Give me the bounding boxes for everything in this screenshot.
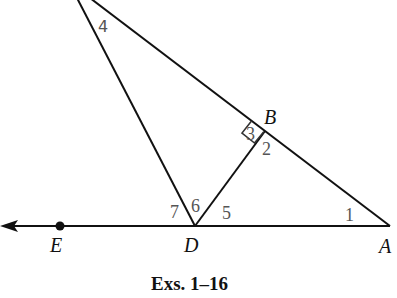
- point-label-b: B: [264, 106, 276, 128]
- angle-label-7: 7: [170, 202, 179, 222]
- angle-label-5: 5: [222, 203, 231, 223]
- figure-caption: Exs. 1–16: [151, 273, 228, 294]
- point-e-dot: [56, 222, 65, 231]
- point-label-a: A: [377, 235, 392, 257]
- point-label-e: E: [49, 234, 62, 256]
- point-label-d: D: [183, 234, 199, 256]
- angle-label-4: 4: [98, 17, 108, 36]
- geometry-diagram: B D A E 1 2 3 4 5 6 7 Exs. 1–16: [0, 0, 397, 298]
- angle-label-3: 3: [246, 124, 255, 144]
- angle-label-1: 1: [345, 205, 354, 225]
- angle-label-2: 2: [262, 139, 271, 159]
- angle-label-6: 6: [191, 196, 200, 216]
- segment-a-top: [90, 0, 390, 226]
